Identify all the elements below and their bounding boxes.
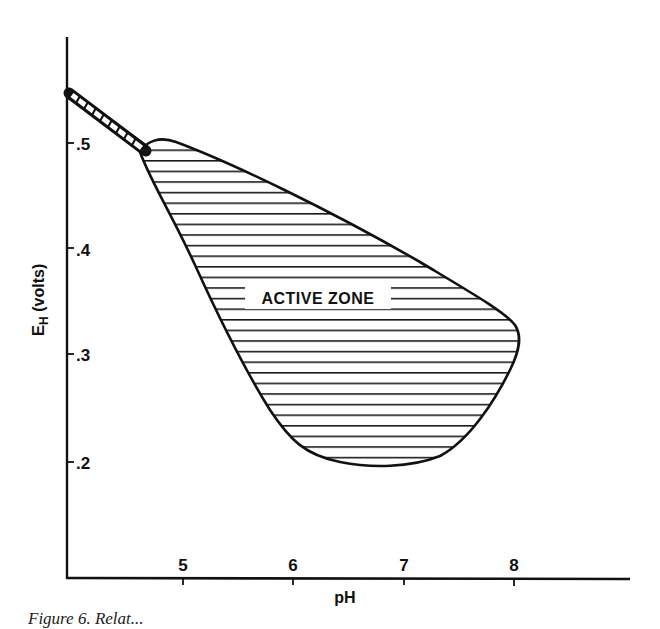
active-zone: ACTIVE ZONE [130, 130, 530, 475]
x-tick-label: 5 [178, 556, 187, 575]
svg-text:EH (volts): EH (volts) [29, 264, 51, 336]
x-tick-label: 6 [288, 556, 297, 575]
active-zone-label: ACTIVE ZONE [261, 290, 374, 307]
y-ticks: .5 .4 .3 .2 [67, 135, 91, 473]
y-tick-label: .2 [76, 454, 90, 473]
y-tick-label: .3 [76, 346, 90, 365]
x-tick-label: 8 [509, 556, 518, 575]
y-tick-label: .5 [76, 135, 90, 154]
y-axis-title: EH (volts) [29, 264, 51, 336]
x-axis [66, 578, 630, 579]
x-tick-label: 7 [399, 556, 408, 575]
x-axis-title: pH [334, 589, 355, 606]
figure-caption: Figure 6. Relat... [28, 609, 144, 629]
x-ticks: 5 6 7 8 [178, 556, 518, 586]
y-tick-label: .4 [76, 241, 91, 260]
